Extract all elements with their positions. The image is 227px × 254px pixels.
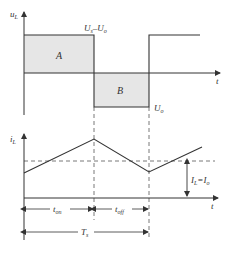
voltage-plot: uL t Us–Uo Uo A B xyxy=(10,9,220,115)
average-current-label: IL=Io xyxy=(190,175,209,186)
current-plot: iL t IL=Io ton toff Ts xyxy=(10,134,218,240)
current-waveform xyxy=(24,139,202,173)
current-t-label: t xyxy=(211,201,214,211)
voltage-t-label: t xyxy=(216,76,219,86)
area-b-label: B xyxy=(117,85,123,96)
current-y-label: iL xyxy=(10,134,17,145)
area-a-label: A xyxy=(55,50,63,61)
voltage-y-label: uL xyxy=(10,9,19,20)
upper-level-label: Us–Uo xyxy=(84,23,107,34)
lower-level-label: Uo xyxy=(154,103,164,114)
waveform-diagram: uL t Us–Uo Uo A B iL t IL=Io ton toff xyxy=(0,0,227,254)
